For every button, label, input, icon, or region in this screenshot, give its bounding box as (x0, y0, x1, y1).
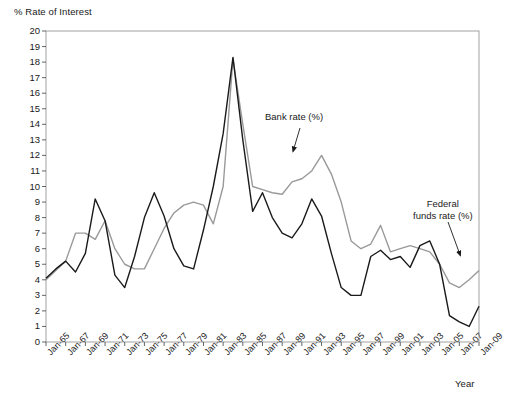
annotation-federal-funds-rate-line2: funds rate (%) (413, 210, 473, 222)
annotation-arrows (293, 128, 460, 256)
arrow-federal-funds-rate (448, 222, 460, 256)
arrow-bank-rate (293, 128, 300, 151)
data-series (46, 57, 479, 326)
annotation-federal-funds-rate-line1: Federal (413, 198, 473, 210)
plot-frame (46, 31, 479, 342)
annotation-bank-rate: Bank rate (%) (265, 111, 323, 123)
annotation-federal-funds-rate: Federal funds rate (%) (413, 198, 473, 222)
series-line-federal-funds-rate (46, 57, 479, 326)
